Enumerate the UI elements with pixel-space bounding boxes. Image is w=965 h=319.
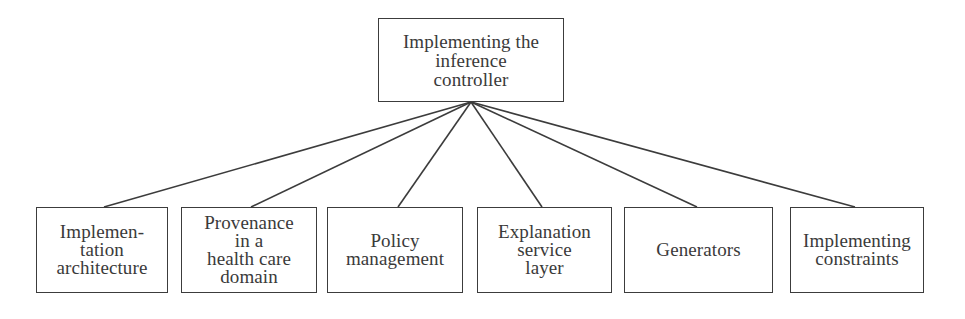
node-label: Explanation service layer (498, 223, 591, 277)
node-label: Implementing constraints (803, 232, 911, 268)
connector-policy-management (398, 102, 471, 207)
node-label: Policy management (346, 232, 444, 268)
node-explanation-service-layer: Explanation service layer (477, 207, 612, 293)
node-provenance-health-care: Provenance in a health care domain (181, 207, 317, 293)
node-label: Implemen- tation architecture (57, 223, 148, 277)
root-node-label: Implementing the inference controller (403, 32, 539, 89)
node-label: Provenance in a health care domain (204, 214, 294, 286)
node-generators: Generators (624, 207, 773, 293)
node-implementing-constraints: Implementing constraints (790, 207, 924, 293)
connector-provenance-health-care (251, 102, 471, 207)
node-label: Generators (656, 241, 740, 259)
node-policy-management: Policy management (327, 207, 463, 293)
root-node-implementing-inference-controller: Implementing the inference controller (378, 18, 564, 102)
connector-implementation-architecture (104, 102, 471, 207)
node-implementation-architecture: Implemen- tation architecture (36, 207, 168, 293)
